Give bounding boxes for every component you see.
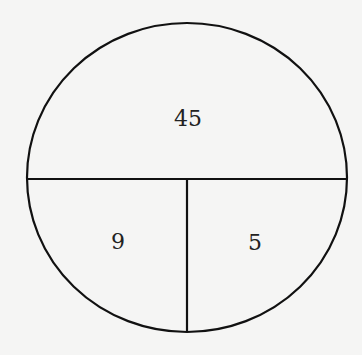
divided-circle [0,0,362,355]
region-bottom-right-label: 5 [248,230,262,255]
diagram-canvas: 45 9 5 [0,0,362,355]
region-bottom-left-label: 9 [111,229,125,254]
region-top-label: 45 [174,106,202,131]
